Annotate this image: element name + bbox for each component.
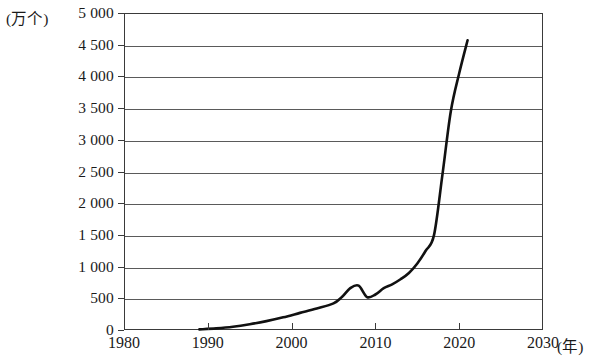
y-axis-tick — [118, 13, 124, 14]
y-axis-tick — [118, 76, 124, 77]
y-axis-tick-label: 2 000 — [22, 195, 114, 211]
x-axis-tick-label: 2020 — [443, 334, 475, 351]
y-axis-tick-label: 1 500 — [22, 227, 114, 243]
y-axis-tick — [118, 140, 124, 141]
x-axis-unit-label: (年) — [557, 334, 583, 356]
x-axis-tick — [459, 323, 460, 330]
y-axis-tick-label: 2 500 — [22, 164, 114, 180]
x-axis-tick — [208, 323, 209, 330]
y-axis-tick-label: 3 000 — [22, 132, 114, 148]
y-axis-tick — [118, 330, 124, 331]
x-axis-tick-label: 1980 — [108, 334, 140, 351]
y-axis-tick — [118, 267, 124, 268]
y-axis-tick-label: 5 000 — [22, 5, 114, 21]
y-axis-tick-label: 0 — [22, 322, 114, 338]
y-axis-tick-label: 4 000 — [22, 68, 114, 84]
y-axis-tick-label: 1 000 — [22, 259, 114, 275]
y-axis-tick — [118, 235, 124, 236]
y-axis-tick-label: 500 — [22, 290, 114, 306]
x-axis-tick-label: 1990 — [192, 334, 224, 351]
x-axis-tick-label: 2000 — [276, 334, 308, 351]
x-axis-tick — [292, 323, 293, 330]
x-axis-tick — [375, 323, 376, 330]
line-chart: (万个) 05001 0001 5002 0002 5003 0003 5004… — [0, 0, 605, 358]
y-axis-tick — [118, 298, 124, 299]
y-axis-tick-label: 3 500 — [22, 100, 114, 116]
x-axis-tick-label: 2010 — [359, 334, 391, 351]
data-series-line — [124, 13, 543, 330]
y-axis-tick — [118, 45, 124, 46]
y-axis-tick — [118, 172, 124, 173]
y-axis-tick — [118, 203, 124, 204]
y-axis-tick — [118, 108, 124, 109]
x-axis-tick-label: 2030 — [527, 334, 559, 351]
y-axis-tick-label: 4 500 — [22, 37, 114, 53]
